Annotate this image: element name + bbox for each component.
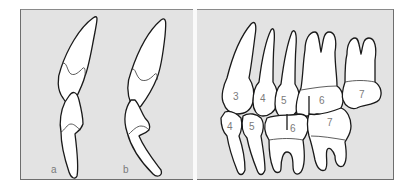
upper-tooth-number-3: 3 (233, 91, 239, 102)
upper-tooth-number-4: 4 (260, 93, 266, 104)
upper-canine-3 (222, 23, 256, 115)
view-label-a: a (51, 164, 57, 175)
dental-figure: a b 3 4 5 6 (20, 9, 395, 180)
dentition-illustration: 3 4 5 6 7 4 5 6 (197, 10, 393, 179)
upper-incisor-b (128, 19, 166, 109)
upper-tooth-number-7: 7 (359, 89, 365, 100)
view-label-b: b (123, 164, 129, 175)
incisor-relationship-panel: a b (20, 9, 193, 180)
lower-tooth-number-4: 4 (227, 121, 233, 132)
upper-tooth-number-6: 6 (319, 95, 325, 106)
lower-premolar-4 (221, 111, 245, 174)
lower-tooth-number-5: 5 (249, 121, 255, 132)
lower-incisor-b (125, 100, 161, 176)
buccal-occlusion-panel: 3 4 5 6 7 4 5 6 (197, 9, 394, 180)
incisor-illustration: a b (21, 10, 193, 179)
lower-tooth-number-7: 7 (327, 117, 333, 128)
lower-incisor-a (60, 93, 83, 179)
upper-tooth-number-5: 5 (281, 95, 287, 106)
upper-incisor-a (58, 17, 97, 104)
lower-tooth-number-6: 6 (290, 123, 296, 134)
